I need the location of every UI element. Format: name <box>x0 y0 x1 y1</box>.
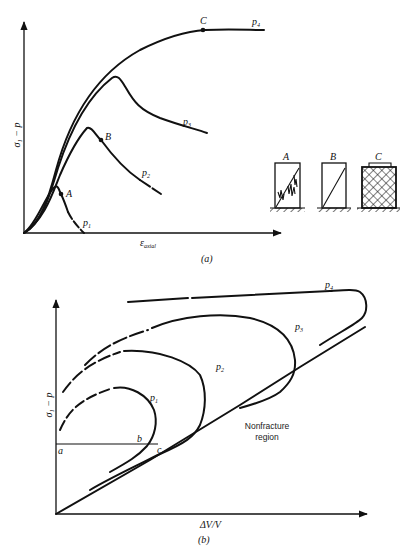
figure-b: σ₁ − p ΔV/V a b c p4 p3 p2 p1 Nonfractur… <box>43 279 367 546</box>
region-label-line2: region <box>255 432 279 442</box>
curve-p2-b-solid <box>90 351 205 490</box>
curve-p3-b <box>85 330 148 365</box>
point-B <box>99 138 104 143</box>
label-p3-a: p3 <box>182 116 191 128</box>
curve-p3-a <box>24 77 207 233</box>
curve-p2-a <box>24 128 140 233</box>
x-axis-label-b: ΔV/V <box>199 519 223 530</box>
specimen-A-label: A <box>282 151 290 162</box>
curve-p2-a-dashed <box>140 180 161 194</box>
curve-p1-a-dashed <box>68 212 84 233</box>
label-point-B: B <box>105 131 111 142</box>
specimen-A: A <box>270 151 305 212</box>
label-point-a: a <box>58 445 63 456</box>
region-label-line1: Nonfracture <box>245 421 290 431</box>
label-p1-b: p1 <box>149 392 158 404</box>
y-axis-label-a: σ₁ − p <box>11 122 22 147</box>
caption-a: (a) <box>201 253 213 265</box>
figure-canvas: σ₁ − p εaxial A B C p4 p3 p2 p1 A <box>0 0 406 553</box>
x-axis-label-a: εaxial <box>140 237 156 249</box>
label-point-A: A <box>65 188 73 199</box>
curve-p4-a <box>24 30 264 233</box>
label-p2-a: p2 <box>141 167 150 179</box>
label-p4-a: p4 <box>251 16 260 28</box>
label-point-C: C <box>200 15 207 26</box>
curve-p1-b <box>60 389 110 430</box>
specimen-B: B <box>317 151 351 212</box>
label-p2-b: p2 <box>215 361 224 373</box>
curve-p3-b-solid <box>152 315 295 408</box>
caption-b: (b) <box>198 534 210 546</box>
figure-a: σ₁ − p εaxial A B C p4 p3 p2 p1 A <box>11 15 400 265</box>
specimen-B-label: B <box>330 151 336 162</box>
label-p4-b: p4 <box>324 279 333 291</box>
label-point-b: b <box>137 433 142 444</box>
label-p1-a: p1 <box>82 217 91 229</box>
nonfracture-boundary-line <box>56 327 365 514</box>
specimen-C: C <box>357 151 400 212</box>
specimen-C-label: C <box>375 151 382 162</box>
point-C <box>201 28 206 33</box>
point-A <box>59 192 64 197</box>
label-p3-b: p3 <box>294 321 303 333</box>
y-axis-label-b: σ₁ − p <box>43 392 54 417</box>
